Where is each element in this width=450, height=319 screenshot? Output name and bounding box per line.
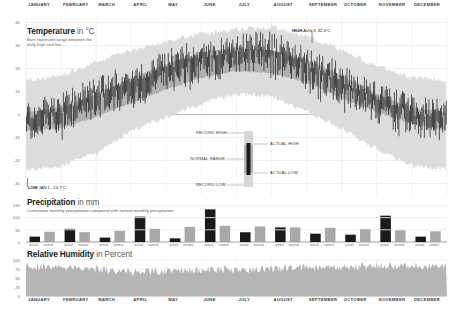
precip-tick-50: 50 bbox=[4, 228, 20, 233]
precip-label-actual-april: actual bbox=[133, 243, 145, 247]
legend-record-high: RECORD HIGH bbox=[196, 130, 225, 135]
month-label-april: APRIL bbox=[133, 297, 147, 302]
month-label-december: DECEMBER bbox=[414, 2, 440, 7]
precip-label-normal-january: normal bbox=[42, 243, 54, 247]
month-label-july: JULY bbox=[239, 2, 251, 7]
month-label-july: JULY bbox=[239, 297, 251, 302]
month-label-may: MAY bbox=[168, 2, 178, 7]
month-label-april: APRIL bbox=[133, 2, 147, 7]
humidity-plot bbox=[0, 250, 450, 319]
precip-tick-150: 150 bbox=[4, 203, 20, 208]
temp-tick-40: 40 bbox=[4, 20, 20, 25]
month-axis-top: JANUARYFEBRUARYMARCHAPRILMAYJUNEJULYAUGU… bbox=[0, 0, 450, 10]
precip-label-actual-february: actual bbox=[63, 243, 75, 247]
month-label-march: MARCH bbox=[98, 2, 115, 7]
month-label-may: MAY bbox=[168, 297, 178, 302]
temp-tick-neg20: -20 bbox=[4, 158, 20, 163]
month-label-january: JANUARY bbox=[28, 297, 50, 302]
month-label-october: OCTOBER bbox=[344, 2, 367, 7]
temp-tick-30: 30 bbox=[4, 43, 20, 48]
month-label-february: FEBRUARY bbox=[63, 2, 88, 7]
precip-label-actual-march: actual bbox=[98, 243, 110, 247]
precip-label-actual-december: actual bbox=[413, 243, 425, 247]
legend-actual-high: ACTUAL HIGH bbox=[270, 141, 299, 146]
precip-label-normal-may: normal bbox=[183, 243, 195, 247]
temperature-low-annotation: LOW JAN 1, -13.7°C bbox=[28, 185, 66, 190]
month-label-june: JUNE bbox=[203, 297, 215, 302]
month-label-september: SEPTEMBER bbox=[309, 2, 338, 7]
temperature-high-annotation: HIGH AUG 3, 32.4°C bbox=[292, 28, 330, 33]
precip-label-normal-december: normal bbox=[428, 243, 440, 247]
high-value: AUG 3, 32.4°C bbox=[303, 28, 330, 33]
legend-actual-low: ACTUAL LOW bbox=[270, 170, 298, 175]
month-label-september: SEPTEMBER bbox=[309, 297, 338, 302]
month-label-october: OCTOBER bbox=[344, 297, 367, 302]
temp-tick-neg30: -30 bbox=[4, 181, 20, 186]
temp-tick-20: 20 bbox=[4, 66, 20, 71]
precip-tick-0: 0 bbox=[4, 240, 20, 245]
month-label-november: NOVEMBER bbox=[379, 2, 405, 7]
temperature-panel: Temperature in °C Bars represent range b… bbox=[0, 10, 450, 202]
humidity-tick-100: 100 bbox=[4, 258, 20, 263]
precip-tick-100: 100 bbox=[4, 215, 20, 220]
month-label-december: DECEMBER bbox=[414, 297, 440, 302]
legend-record-low: RECORD LOW bbox=[196, 182, 225, 187]
precip-label-actual-january: actual bbox=[28, 243, 40, 247]
temp-tick-10: 10 bbox=[4, 89, 20, 94]
precip-label-normal-february: normal bbox=[77, 243, 89, 247]
precip-label-actual-july: actual bbox=[238, 243, 250, 247]
month-label-august: AUGUST bbox=[274, 297, 293, 302]
precip-label-normal-april: normal bbox=[147, 243, 159, 247]
low-tag: LOW bbox=[28, 185, 38, 190]
humidity-tick-25: 25 bbox=[4, 285, 20, 290]
precip-label-normal-september: normal bbox=[323, 243, 335, 247]
precip-label-actual-august: actual bbox=[273, 243, 285, 247]
month-label-january: JANUARY bbox=[28, 2, 50, 7]
precip-label-actual-may: actual bbox=[168, 243, 180, 247]
humidity-tick-50: 50 bbox=[4, 276, 20, 281]
temperature-legend: RECORD HIGH NORMAL RANGE RECORD LOW ACTU… bbox=[196, 128, 308, 190]
temp-tick-neg10: -10 bbox=[4, 135, 20, 140]
precip-label-actual-september: actual bbox=[308, 243, 320, 247]
precipitation-panel: Precipitation in mm Cumulative monthly p… bbox=[0, 198, 450, 252]
precip-label-actual-november: actual bbox=[378, 243, 390, 247]
month-label-november: NOVEMBER bbox=[379, 297, 405, 302]
precip-label-normal-june: normal bbox=[218, 243, 230, 247]
humidity-panel: Relative Humidity in Percent 1007550250 … bbox=[0, 250, 450, 319]
weather-chart-page: JANUARYFEBRUARYMARCHAPRILMAYJUNEJULYAUGU… bbox=[0, 0, 450, 319]
precip-label-normal-october: normal bbox=[358, 243, 370, 247]
legend-normal-range: NORMAL RANGE bbox=[183, 156, 225, 161]
temp-tick-0: 0 bbox=[4, 112, 20, 117]
precip-label-normal-august: normal bbox=[288, 243, 300, 247]
precip-label-normal-march: normal bbox=[112, 243, 124, 247]
precip-label-normal-november: normal bbox=[393, 243, 405, 247]
month-label-february: FEBRUARY bbox=[63, 297, 88, 302]
precip-label-actual-june: actual bbox=[203, 243, 215, 247]
precip-label-actual-october: actual bbox=[343, 243, 355, 247]
month-label-august: AUGUST bbox=[274, 2, 293, 7]
month-label-march: MARCH bbox=[98, 297, 115, 302]
precip-label-normal-july: normal bbox=[253, 243, 265, 247]
month-label-june: JUNE bbox=[203, 2, 215, 7]
low-value: JAN 1, -13.7°C bbox=[39, 185, 66, 190]
high-tag: HIGH bbox=[292, 28, 302, 33]
month-axis-bottom: JANUARYFEBRUARYMARCHAPRILMAYJUNEJULYAUGU… bbox=[0, 297, 450, 307]
humidity-tick-75: 75 bbox=[4, 267, 20, 272]
